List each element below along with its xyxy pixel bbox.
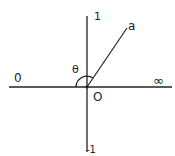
label-right: ∞: [153, 73, 164, 88]
label-ray: a: [128, 19, 135, 33]
ray-a: [87, 28, 127, 87]
label-bottom: -1: [86, 144, 96, 155]
label-top: 1: [94, 10, 101, 23]
label-left: 0: [14, 71, 22, 85]
polar-diagram: 1 a θ 0 ∞ O -1: [0, 0, 175, 156]
label-angle: θ: [72, 63, 79, 76]
origin-point: [86, 86, 89, 89]
label-origin: O: [93, 90, 102, 104]
